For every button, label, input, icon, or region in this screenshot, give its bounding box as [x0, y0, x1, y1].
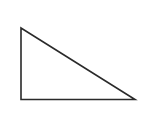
- diagram-canvas: [0, 0, 142, 120]
- triangle-figure: [0, 0, 142, 120]
- right-triangle: [21, 28, 135, 100]
